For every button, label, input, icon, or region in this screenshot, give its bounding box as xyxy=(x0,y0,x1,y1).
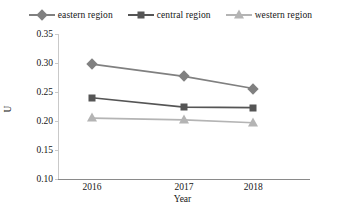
data-point-western-2016 xyxy=(87,113,97,122)
legend-swatch xyxy=(128,9,154,21)
plot-area: 0.100.150.200.250.300.35 xyxy=(58,34,310,179)
y-tick-mark xyxy=(55,121,58,122)
diamond-marker-icon xyxy=(36,9,47,20)
line-chart: eastern regioncentral regionwestern regi… xyxy=(0,0,341,217)
legend-label: central region xyxy=(157,10,211,20)
chart-legend: eastern regioncentral regionwestern regi… xyxy=(0,6,341,24)
legend-label: eastern region xyxy=(58,10,113,20)
y-tick-label: 0.30 xyxy=(36,58,53,68)
legend-item-eastern[interactable]: eastern region xyxy=(29,9,113,21)
y-tick-mark xyxy=(55,179,58,180)
data-point-central-2016 xyxy=(89,94,96,101)
data-point-western-2017 xyxy=(179,114,189,123)
triangle-marker-icon xyxy=(234,10,244,19)
series-line-western xyxy=(92,118,253,123)
x-axis-line xyxy=(58,179,310,180)
y-tick-label: 0.35 xyxy=(36,29,53,39)
y-tick-label: 0.15 xyxy=(36,145,53,155)
legend-swatch xyxy=(226,9,252,21)
x-tick-label: 2018 xyxy=(244,182,263,192)
y-tick-label: 0.20 xyxy=(36,116,53,126)
legend-item-western[interactable]: western region xyxy=(226,9,313,21)
data-point-western-2018 xyxy=(248,117,258,126)
y-tick-mark xyxy=(55,34,58,35)
series-line-eastern xyxy=(92,64,253,88)
x-axis-title: Year xyxy=(0,194,341,204)
y-tick-mark xyxy=(55,92,58,93)
y-tick-label: 0.10 xyxy=(36,174,53,184)
y-tick-mark xyxy=(55,63,58,64)
y-axis-title: U xyxy=(3,105,13,112)
legend-swatch xyxy=(29,9,55,21)
y-tick-mark xyxy=(55,150,58,151)
x-tick-label: 2017 xyxy=(175,182,194,192)
square-marker-icon xyxy=(137,12,144,19)
legend-item-central[interactable]: central region xyxy=(128,9,211,21)
data-point-central-2018 xyxy=(250,104,257,111)
x-axis-title-text: Year xyxy=(174,194,192,204)
y-tick-label: 0.25 xyxy=(36,87,53,97)
series-line-central xyxy=(92,98,253,108)
data-point-central-2017 xyxy=(181,104,188,111)
legend-label: western region xyxy=(255,10,313,20)
x-tick-label: 2016 xyxy=(83,182,102,192)
